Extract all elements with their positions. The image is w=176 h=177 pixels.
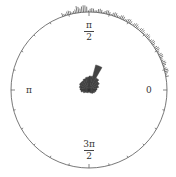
label-zero: 0: [146, 86, 152, 95]
label-half-pi: π2: [83, 21, 95, 42]
label-three-half-pi: 3π2: [81, 140, 97, 161]
label-pi: π: [26, 86, 32, 95]
